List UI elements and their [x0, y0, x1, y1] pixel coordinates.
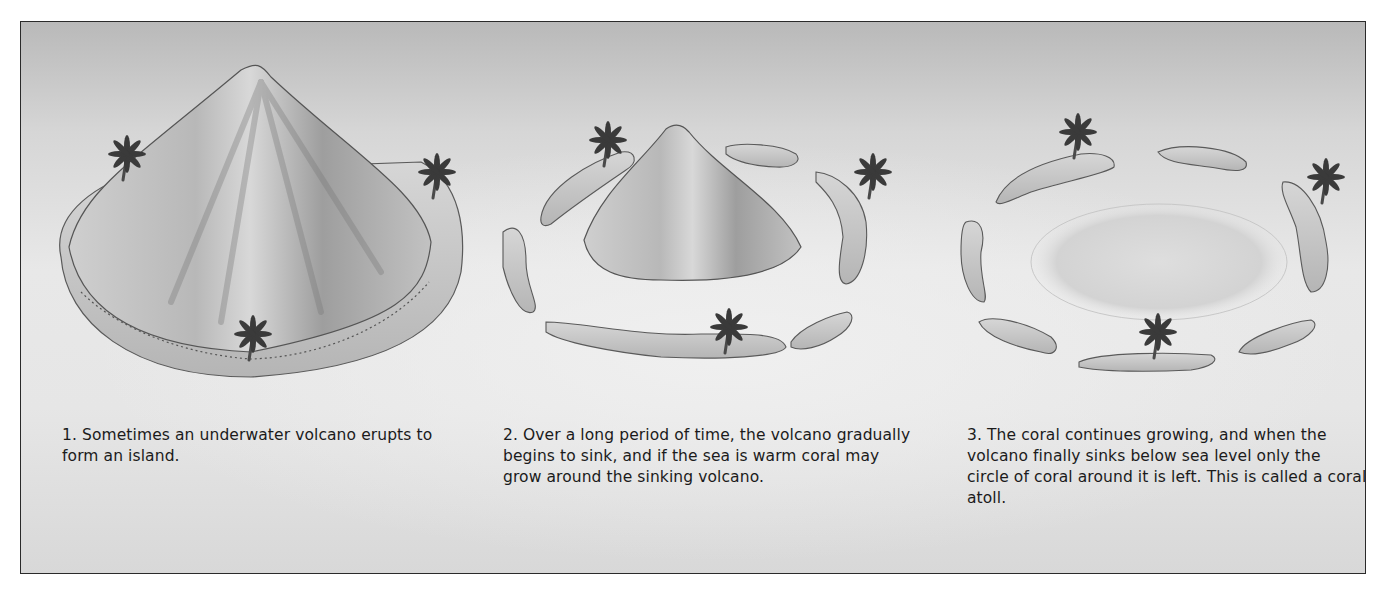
panel-1-volcanic-island — [60, 65, 463, 377]
caption-step-2: 2. Over a long period of time, the volca… — [503, 425, 913, 488]
palm-tree-icon — [1059, 113, 1097, 158]
caption-step-1: 1. Sometimes an underwater volcano erupt… — [62, 425, 462, 467]
palm-tree-icon — [1307, 158, 1345, 203]
lagoon — [1031, 204, 1287, 320]
palm-tree-icon — [854, 153, 892, 198]
palm-tree-icon — [1139, 313, 1177, 358]
panel-2-sinking-volcano — [503, 121, 892, 358]
caption-step-3: 3. The coral continues growing, and when… — [967, 425, 1366, 509]
panel-3-coral-atoll — [961, 113, 1345, 371]
diagram-frame: 1. Sometimes an underwater volcano erupt… — [20, 21, 1366, 574]
